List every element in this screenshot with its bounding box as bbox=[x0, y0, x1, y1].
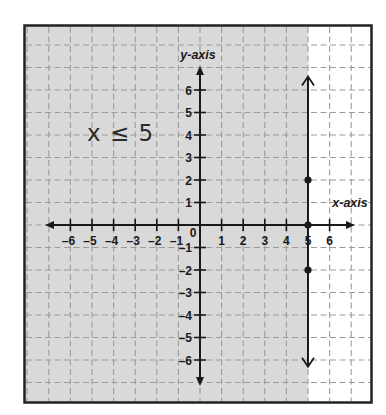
x-tick-label: –5 bbox=[83, 234, 97, 248]
y-tick-label: 3 bbox=[185, 151, 192, 165]
x-tick-label: 6 bbox=[326, 234, 333, 248]
shaded-solution-region bbox=[25, 26, 308, 402]
coordinate-plane-graph: –6–5–4–3–2–1123456654321–1–2–3–4–5–6 y-a… bbox=[0, 0, 386, 415]
y-tick-label: –1 bbox=[179, 241, 193, 255]
y-tick-label: 1 bbox=[185, 196, 192, 210]
plotted-point bbox=[304, 176, 311, 183]
y-tick-label: –2 bbox=[179, 264, 193, 278]
y-tick-label: 5 bbox=[185, 106, 192, 120]
x-tick-label: 2 bbox=[240, 234, 247, 248]
origin-label: 0 bbox=[190, 226, 197, 240]
y-tick-label: –3 bbox=[179, 286, 193, 300]
x-tick-label: 1 bbox=[218, 234, 225, 248]
y-tick-label: –6 bbox=[179, 354, 193, 368]
plotted-point bbox=[304, 221, 311, 228]
x-tick-label: –3 bbox=[127, 234, 141, 248]
x-tick-label: –2 bbox=[148, 234, 162, 248]
y-tick-label: 4 bbox=[185, 129, 192, 143]
y-tick-label: 6 bbox=[185, 84, 192, 98]
y-tick-label: –4 bbox=[179, 309, 193, 323]
inequality-annotation: x ≤ 5 bbox=[87, 120, 154, 146]
x-axis-label: x-axis bbox=[331, 196, 367, 210]
x-tick-label: 3 bbox=[261, 234, 268, 248]
x-tick-label: 4 bbox=[283, 234, 290, 248]
x-tick-label: –4 bbox=[105, 234, 119, 248]
plotted-point bbox=[304, 266, 311, 273]
y-axis-label: y-axis bbox=[179, 48, 215, 62]
y-tick-label: 2 bbox=[185, 174, 192, 188]
y-tick-label: –5 bbox=[179, 331, 193, 345]
x-tick-label: –6 bbox=[62, 234, 76, 248]
